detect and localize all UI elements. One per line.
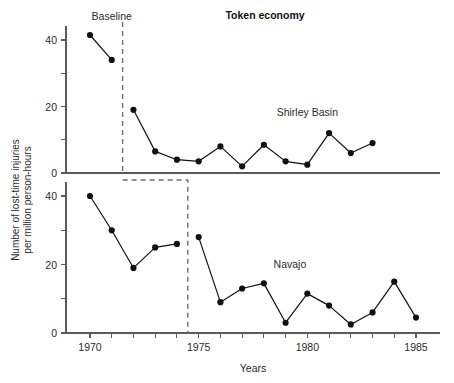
x-axis-tick-label: 1970 — [78, 341, 102, 353]
data-point-marker — [196, 234, 202, 240]
y-axis-tick-label: 0 — [51, 327, 57, 339]
data-point-marker — [87, 193, 93, 199]
y-axis-label-line1: Number of lost-time injuries — [10, 139, 21, 261]
injury-rate-multipanel-chart: Token economy Number of lost-time injuri… — [0, 0, 454, 383]
data-point-marker — [217, 299, 223, 305]
chart-title: Token economy — [225, 9, 304, 21]
data-point-marker — [413, 314, 419, 320]
data-point-marker — [304, 162, 310, 168]
data-point-marker — [109, 227, 115, 233]
data-point-marker — [174, 157, 180, 163]
data-point-marker — [152, 148, 158, 154]
data-point-marker — [130, 265, 136, 271]
data-point-marker — [283, 158, 289, 164]
data-point-marker — [130, 107, 136, 113]
panel-navajo: 02040Navajo — [45, 180, 440, 339]
data-point-marker — [87, 32, 93, 38]
data-point-marker — [261, 142, 267, 148]
x-axis-tick-label: 1975 — [187, 341, 211, 353]
panel-axis-lines — [66, 182, 440, 333]
y-axis-tick-label: 40 — [45, 34, 57, 46]
figure-container: Token economy Number of lost-time injuri… — [0, 0, 454, 383]
data-point-marker — [239, 285, 245, 291]
y-axis-tick-label: 40 — [45, 190, 57, 202]
data-point-marker — [304, 291, 310, 297]
y-axis-tick-label: 0 — [51, 167, 57, 179]
data-point-marker — [196, 158, 202, 164]
series-annotation-shirley-basin: Shirley Basin — [277, 106, 338, 118]
panel-shirley-basin: 02040Shirley BasinBaseline — [45, 10, 440, 179]
y-axis-tick-label: 20 — [45, 259, 57, 271]
x-axis-tick-label: 1985 — [404, 341, 428, 353]
y-axis-label-group: Number of lost-time injuries per million… — [10, 139, 33, 261]
x-axis-ticks: 1970197519801985 — [78, 333, 428, 353]
phase-label-baseline: Baseline — [92, 10, 132, 22]
data-point-marker — [369, 140, 375, 146]
data-point-marker — [239, 163, 245, 169]
data-point-marker — [261, 280, 267, 286]
data-point-marker — [391, 279, 397, 285]
y-axis-label-line2: per million person-hours — [22, 146, 33, 253]
data-point-marker — [283, 320, 289, 326]
data-point-marker — [369, 309, 375, 315]
data-series-line — [90, 196, 177, 268]
data-point-marker — [174, 241, 180, 247]
data-point-marker — [109, 57, 115, 63]
data-point-marker — [326, 303, 332, 309]
data-point-marker — [348, 321, 354, 327]
x-axis-label: Years — [240, 362, 266, 374]
data-point-marker — [217, 143, 223, 149]
data-point-marker — [326, 130, 332, 136]
y-axis-tick-label: 20 — [45, 101, 57, 113]
series-annotation-navajo: Navajo — [274, 258, 307, 270]
x-axis-tick-label: 1980 — [296, 341, 320, 353]
data-series-line — [199, 237, 416, 324]
data-point-marker — [348, 150, 354, 156]
data-series-line — [90, 35, 112, 60]
phase-change-line — [123, 180, 188, 333]
data-point-marker — [152, 244, 158, 250]
